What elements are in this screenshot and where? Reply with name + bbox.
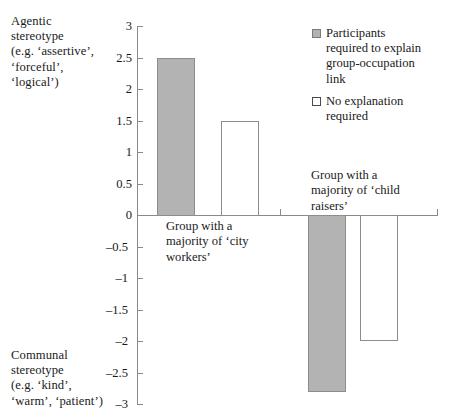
- y-tick-label-m0.5: –0.5: [88, 241, 128, 254]
- legend-label-no-explanation: No explanation required: [326, 94, 403, 124]
- y-tick-label-m1: –1: [88, 272, 128, 285]
- x-tick-midpoint: [280, 209, 281, 216]
- y-tick-2: [137, 89, 143, 90]
- y-tick-m2.5: [137, 373, 143, 374]
- y-tick-label-m2.5: –2.5: [88, 367, 128, 380]
- y-tick-m3: [137, 404, 143, 405]
- bar-child-raisers-explanation: [308, 215, 346, 392]
- agentic-stereotype-label: Agentic stereotype (e.g. ‘assertive’, ‘f…: [11, 14, 94, 90]
- x-tick-end: [437, 209, 438, 216]
- y-tick-m1.5: [137, 310, 143, 311]
- y-tick-label-2.5: 2.5: [92, 52, 132, 65]
- y-tick-2.5: [137, 58, 143, 59]
- y-tick-label-0.5: 0.5: [92, 178, 132, 191]
- group-caption-city-workers: Group with a majority of ‘city workers’: [166, 219, 249, 265]
- y-tick-label-2: 2: [92, 83, 132, 96]
- y-tick-1.5: [137, 121, 143, 122]
- y-tick-label-m2: –2: [88, 335, 128, 348]
- y-tick-0.5: [137, 184, 143, 185]
- y-tick-label-m3: –3: [88, 398, 128, 411]
- legend-item-no-explanation: No explanation required: [312, 94, 444, 124]
- y-tick-label-m1.5: –1.5: [88, 304, 128, 317]
- y-tick-label-1.5: 1.5: [92, 115, 132, 128]
- y-tick-m1: [137, 278, 143, 279]
- y-tick-m2: [137, 341, 143, 342]
- legend-swatch-filled-icon: [312, 29, 321, 38]
- y-tick-1: [137, 152, 143, 153]
- legend: Participants required to explain group-o…: [312, 26, 444, 131]
- legend-label-explanation: Participants required to explain group-o…: [326, 26, 421, 87]
- bar-city-workers-no-explanation: [221, 121, 259, 216]
- legend-swatch-hollow-icon: [312, 97, 321, 106]
- y-tick-3: [137, 26, 143, 27]
- bar-child-raisers-no-explanation: [360, 215, 398, 341]
- y-tick-label-0: 0: [92, 209, 132, 222]
- y-tick-label-3: 3: [92, 20, 132, 33]
- y-tick-m0.5: [137, 247, 143, 248]
- group-caption-child-raisers: Group with a majority of ‘child raisers’: [311, 168, 400, 214]
- bar-city-workers-explanation: [157, 58, 195, 216]
- legend-item-explanation: Participants required to explain group-o…: [312, 26, 444, 87]
- bar-chart: Agentic stereotype (e.g. ‘assertive’, ‘f…: [0, 0, 450, 416]
- y-tick-label-1: 1: [92, 146, 132, 159]
